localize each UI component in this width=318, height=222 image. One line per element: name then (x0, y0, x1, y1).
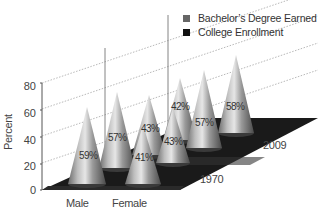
y-axis-label: Percent (2, 114, 14, 150)
data-label: 59% (79, 150, 98, 161)
data-label: 42% (171, 101, 190, 112)
category-female: Female (112, 197, 147, 209)
legend-item-bachelors: Bachelor’s Degree Earned (183, 11, 317, 25)
data-label: 41% (135, 152, 154, 163)
legend-swatch-icon (183, 15, 190, 22)
cone-female-2009-enrollment (218, 55, 254, 137)
y-tick-20: 20 (14, 160, 36, 172)
legend-item-enrollment: College Enrollment (183, 25, 317, 39)
depth-label-1970: 1970 (200, 173, 223, 185)
data-label: 43% (141, 123, 160, 134)
data-label: 58% (226, 101, 245, 112)
cone-female-2009-bachelors (186, 70, 222, 152)
y-tick-0: 0 (14, 184, 36, 196)
legend-label: College Enrollment (198, 25, 283, 39)
data-label: 43% (164, 136, 183, 147)
legend-swatch-icon (183, 29, 190, 36)
category-male: Male (66, 197, 89, 209)
y-tick-60: 60 (14, 107, 36, 119)
depth-label-2009: 2009 (263, 139, 286, 151)
data-label: 57% (108, 132, 127, 143)
legend: Bachelor’s Degree Earned College Enrollm… (183, 11, 317, 39)
legend-label: Bachelor’s Degree Earned (198, 11, 317, 25)
y-tick-40: 40 (14, 134, 36, 146)
y-tick-80: 80 (14, 80, 36, 92)
cone-male-1970-enrollment (68, 107, 106, 188)
data-label: 57% (195, 117, 214, 128)
